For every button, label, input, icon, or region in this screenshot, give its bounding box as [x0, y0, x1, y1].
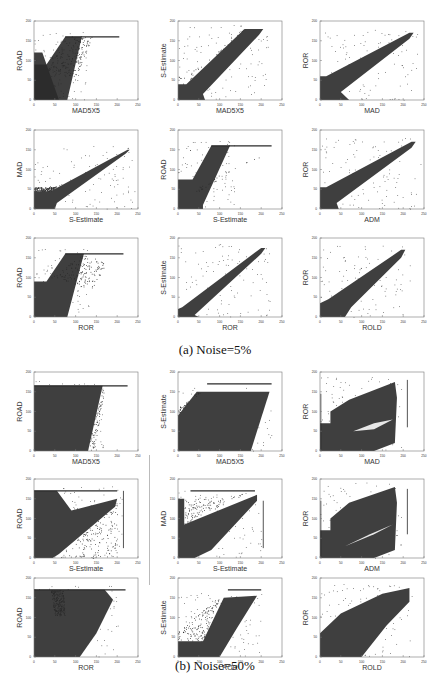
dense-point-cloud — [320, 382, 397, 451]
y-tick-label: 200 — [170, 370, 176, 374]
y-axis-label: ROAD — [16, 401, 23, 421]
x-tick-label: 250 — [279, 103, 285, 107]
y-tick-label: 50 — [313, 429, 317, 433]
dense-point-cloud — [178, 29, 263, 100]
y-axis-label: S-Estimate — [160, 394, 167, 428]
x-axis-label: ROR — [78, 324, 94, 331]
y-axis-label: ROAD — [16, 508, 23, 528]
y-tick-label: 100 — [26, 616, 32, 620]
y-tick-label: 100 — [170, 616, 176, 620]
dense-point-cloud — [178, 248, 265, 317]
x-tick-label: 50 — [197, 212, 201, 216]
y-tick-label: 100 — [170, 168, 176, 172]
y-tick-label: 100 — [312, 276, 318, 280]
y-tick-label: 150 — [26, 39, 32, 43]
y-tick-label: 0 — [173, 315, 175, 319]
y-tick-label: 200 — [170, 128, 176, 132]
y-tick-label: 50 — [27, 536, 31, 540]
y-axis-label: ROAD — [160, 159, 167, 179]
x-tick-label: 50 — [339, 212, 343, 216]
y-tick-label: 50 — [171, 635, 175, 639]
y-tick-label: 150 — [312, 596, 318, 600]
scatter-panel-a-sestimate-road: 050100150200250050100150200S-EstimateROA… — [144, 109, 288, 228]
x-tick-label: 50 — [197, 320, 201, 324]
y-axis-label: ROR — [302, 53, 309, 69]
x-tick-label: 0 — [319, 212, 321, 216]
y-tick-label: 150 — [170, 39, 176, 43]
y-tick-label: 150 — [312, 497, 318, 501]
y-axis-label: S-Estimate — [160, 260, 167, 294]
y-tick-label: 150 — [26, 148, 32, 152]
column-divider — [149, 455, 150, 585]
y-tick-label: 0 — [315, 98, 317, 102]
y-tick-label: 200 — [26, 370, 32, 374]
y-tick-label: 200 — [170, 19, 176, 23]
y-tick-label: 100 — [312, 410, 318, 414]
y-tick-label: 200 — [312, 236, 318, 240]
y-tick-label: 0 — [173, 449, 175, 453]
y-tick-label: 100 — [312, 168, 318, 172]
y-tick-label: 50 — [171, 295, 175, 299]
x-tick-label: 200 — [115, 320, 121, 324]
y-tick-label: 0 — [173, 207, 175, 211]
x-tick-label: 150 — [94, 320, 100, 324]
y-axis-label: MAD — [160, 511, 167, 527]
y-tick-label: 50 — [313, 187, 317, 191]
dense-point-cloud — [34, 254, 84, 317]
y-tick-label: 50 — [171, 187, 175, 191]
y-tick-label: 0 — [29, 315, 31, 319]
dense-point-cloud — [34, 386, 103, 451]
x-tick-label: 0 — [177, 212, 179, 216]
y-tick-label: 150 — [170, 256, 176, 260]
x-tick-label: 0 — [177, 320, 179, 324]
y-tick-label: 50 — [27, 295, 31, 299]
y-tick-label: 0 — [315, 449, 317, 453]
scatter-panel-a-rold-ror: 050100150200250050100150200ROLDROR — [286, 217, 430, 336]
x-tick-label: 50 — [197, 103, 201, 107]
y-tick-label: 50 — [27, 187, 31, 191]
y-tick-label: 100 — [26, 59, 32, 63]
y-tick-label: 0 — [315, 207, 317, 211]
x-tick-label: 50 — [53, 212, 57, 216]
x-tick-label: 250 — [279, 212, 285, 216]
y-tick-label: 100 — [170, 517, 176, 521]
x-tick-label: 200 — [259, 320, 265, 324]
y-tick-label: 150 — [312, 148, 318, 152]
x-tick-label: 50 — [339, 103, 343, 107]
x-tick-label: 250 — [135, 320, 141, 324]
x-tick-label: 200 — [259, 103, 265, 107]
scatter-panel-a-ror-road: 050100150200250050100150200RORROAD — [0, 217, 144, 336]
y-tick-label: 150 — [170, 148, 176, 152]
y-axis-label: ROR — [302, 511, 309, 527]
y-tick-label: 200 — [312, 19, 318, 23]
y-tick-label: 200 — [26, 477, 32, 481]
x-tick-label: 200 — [115, 212, 121, 216]
x-tick-label: 0 — [177, 103, 179, 107]
x-tick-label: 200 — [401, 320, 407, 324]
x-axis-label: ROLD — [362, 324, 381, 331]
x-tick-label: 250 — [421, 212, 427, 216]
dense-point-cloud — [34, 590, 113, 657]
y-axis-label: ROR — [302, 162, 309, 178]
y-tick-label: 200 — [312, 370, 318, 374]
y-tick-label: 200 — [170, 576, 176, 580]
y-tick-label: 50 — [313, 635, 317, 639]
y-tick-label: 200 — [170, 236, 176, 240]
y-axis-label: MAD — [16, 162, 23, 178]
y-tick-label: 50 — [171, 78, 175, 82]
x-tick-label: 250 — [135, 212, 141, 216]
x-tick-label: 200 — [115, 103, 121, 107]
y-tick-label: 50 — [27, 78, 31, 82]
x-axis-label: ROR — [222, 324, 238, 331]
x-tick-label: 50 — [53, 103, 57, 107]
y-tick-label: 100 — [26, 410, 32, 414]
x-tick-label: 150 — [238, 320, 244, 324]
x-tick-label: 200 — [401, 103, 407, 107]
y-tick-label: 50 — [313, 295, 317, 299]
x-tick-label: 150 — [380, 103, 386, 107]
y-tick-label: 150 — [170, 596, 176, 600]
y-axis-label: ROAD — [16, 607, 23, 627]
dense-point-cloud — [320, 487, 397, 558]
x-tick-label: 0 — [33, 103, 35, 107]
scatter-panel-b-mad5x5-road: 050100150200250050100150200MAD5X5ROAD — [0, 351, 144, 470]
